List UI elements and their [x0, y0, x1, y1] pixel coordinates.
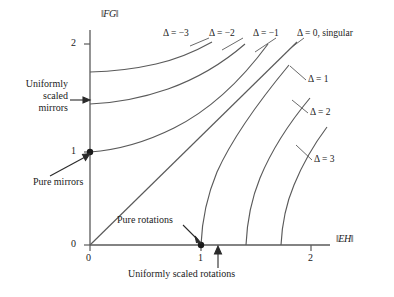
arrow-pure-mirrors-shaft — [50, 156, 87, 176]
usm-line-2: scaled — [0, 90, 68, 102]
plot-canvas — [0, 0, 394, 297]
usm-line-1: Uniformly — [0, 78, 68, 90]
marked-points-group — [87, 149, 204, 248]
y-tick-label-2: 2 — [71, 37, 76, 48]
usm-line-3: mirrors — [0, 102, 68, 114]
leader-lines-group — [190, 38, 312, 160]
x-axis-title: ‖EH‖ — [336, 233, 353, 244]
y-tick-label-0: 0 — [71, 238, 76, 249]
annotation-uniformly-scaled-mirrors: Uniformly scaled mirrors — [0, 78, 68, 115]
curve-delta-pos1 — [201, 65, 289, 245]
curve-label-delta-pos1: Δ = 1 — [308, 74, 328, 85]
curve-label-delta-neg3: Δ = −3 — [163, 28, 189, 39]
figure-container: ‖FG‖ ‖EH‖ 2 1 0 0 1 2 Δ = −3 Δ = −2 Δ = … — [0, 0, 394, 297]
leader-pos1 — [290, 66, 306, 80]
curve-label-delta-zero: Δ = 0, singular — [297, 28, 353, 39]
annotation-uniformly-scaled-rotations: Uniformly scaled rotations — [128, 268, 235, 279]
x-tick-label-1: 1 — [198, 252, 203, 263]
annotation-pure-mirrors: Pure mirrors — [33, 176, 83, 187]
arrow-usm-head — [83, 97, 90, 103]
leader-zero — [292, 38, 304, 47]
arrow-usr-head — [215, 246, 222, 254]
arrow-pure-rotations-head — [195, 236, 201, 243]
arrow-pure-mirrors-head — [83, 154, 91, 161]
y-tick-label-1: 1 — [71, 145, 76, 156]
curve-label-delta-neg1: Δ = −1 — [253, 28, 279, 39]
y-axis-title: ‖FG‖ — [101, 8, 118, 19]
curve-delta-neg3 — [90, 42, 212, 72]
x-tick-label-2: 2 — [308, 252, 313, 263]
curve-delta-pos3 — [281, 127, 327, 245]
annotation-pure-rotations: Pure rotations — [117, 214, 173, 225]
curve-label-delta-pos3: Δ = 3 — [314, 154, 334, 165]
x-tick-label-0: 0 — [86, 252, 91, 263]
curve-label-delta-pos2: Δ = 2 — [310, 107, 330, 118]
leader-neg1 — [255, 38, 276, 52]
curve-label-delta-neg2: Δ = −2 — [209, 28, 235, 39]
curve-delta-neg1 — [90, 44, 268, 152]
